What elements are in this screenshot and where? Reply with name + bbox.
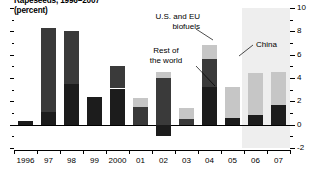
bar-segment: [179, 108, 193, 119]
x-tick: [152, 150, 153, 154]
y-tick-label: 6: [297, 51, 301, 59]
bar-segment: [133, 98, 147, 107]
bar-2000: [110, 8, 124, 148]
annotation-rest-line2: the world: [136, 56, 196, 66]
y-tick-label: 0: [297, 121, 301, 129]
x-tick: [60, 150, 61, 154]
bar-segment: [271, 72, 285, 105]
x-tick: [14, 150, 15, 154]
x-axis-label-2000: 2000: [109, 156, 127, 165]
bar-segment: [179, 119, 193, 125]
bar-segment: [156, 125, 170, 137]
bar-segment: [110, 66, 124, 88]
x-axis-label-06: 06: [251, 156, 260, 165]
y-tick-left-stub: [10, 31, 14, 32]
annotation-biofuels-line2: biofuels: [138, 22, 200, 32]
bar-segment: [248, 73, 262, 115]
x-axis-label-98: 98: [67, 156, 76, 165]
bar-segment: [225, 87, 239, 117]
x-tick: [198, 150, 199, 154]
y-tick-label: -2: [297, 144, 304, 152]
y-tick-left-stub: [12, 136, 14, 137]
bar-segment: [225, 118, 239, 125]
x-axis-label-03: 03: [182, 156, 191, 165]
y-tick-left-stub: [10, 55, 14, 56]
x-tick: [290, 150, 291, 154]
y-tick-minor: [290, 66, 293, 67]
y-tick-minor: [290, 43, 293, 44]
annotation-rest-of-world: Rest of the world: [136, 46, 196, 65]
x-axis-label-97: 97: [44, 156, 53, 165]
bar-04: [202, 8, 216, 148]
bar-99: [87, 8, 101, 148]
bar-segment: [202, 59, 216, 87]
y-tick-left-stub: [10, 125, 14, 126]
y-tick-left-stub: [12, 43, 14, 44]
bar-segment: [18, 121, 32, 125]
y-tick-minor: [290, 113, 293, 114]
x-tick: [106, 150, 107, 154]
bar-06: [248, 8, 262, 148]
bar-segment: [64, 31, 78, 84]
x-tick: [267, 150, 268, 154]
y-tick-major: [290, 78, 295, 79]
x-tick: [244, 150, 245, 154]
y-tick-major: [290, 55, 295, 56]
annotation-rest-line1: Rest of: [136, 46, 196, 56]
x-axis-label-02: 02: [159, 156, 168, 165]
annotation-biofuels: U.S. and EU biofuels: [138, 12, 200, 31]
bar-segment: [156, 78, 170, 125]
bar-segment: [87, 97, 101, 125]
y-tick-left-stub: [12, 66, 14, 67]
annotation-china: China: [256, 40, 277, 50]
bar-98: [64, 8, 78, 148]
y-tick-label: 4: [297, 74, 301, 82]
y-tick-left-stub: [10, 101, 14, 102]
y-tick-label: 2: [297, 97, 301, 105]
bar-segment: [202, 45, 216, 59]
x-axis-label-01: 01: [136, 156, 145, 165]
x-tick: [221, 150, 222, 154]
bar-segment: [271, 105, 285, 125]
bar-segment: [156, 72, 170, 78]
y-tick-major: [290, 31, 295, 32]
y-axis-right: 1086420-2: [290, 8, 318, 148]
y-tick-major: [290, 8, 295, 9]
y-tick-left-stub: [10, 148, 14, 149]
bar-1996: [18, 8, 32, 148]
bar-segment: [41, 28, 55, 112]
y-tick-left-stub: [10, 8, 14, 9]
bar-07: [271, 8, 285, 148]
y-tick-label: 10: [297, 4, 306, 12]
bar-segment: [110, 89, 124, 125]
x-tick: [129, 150, 130, 154]
chart-figure: Rapeseeds, 1996–2007 (percent) 1086420-2…: [0, 0, 318, 171]
bar-segment: [133, 107, 147, 125]
y-tick-major: [290, 125, 295, 126]
x-axis-label-05: 05: [228, 156, 237, 165]
x-axis-label-1996: 1996: [17, 156, 35, 165]
y-tick-left-stub: [12, 90, 14, 91]
y-tick-left-stub: [10, 78, 14, 79]
y-tick-minor: [290, 20, 293, 21]
annotation-china-line1: China: [256, 40, 277, 50]
y-tick-label: 8: [297, 27, 301, 35]
bar-segment: [64, 84, 78, 125]
x-tick: [175, 150, 176, 154]
y-tick-minor: [290, 136, 293, 137]
x-axis-label-04: 04: [205, 156, 214, 165]
bar-segment: [248, 115, 262, 124]
y-tick-major: [290, 101, 295, 102]
bar-05: [225, 8, 239, 148]
annotation-biofuels-line1: U.S. and EU: [138, 12, 200, 22]
x-tick: [83, 150, 84, 154]
y-tick-left-stub: [12, 113, 14, 114]
x-tick: [37, 150, 38, 154]
x-axis-label-07: 07: [274, 156, 283, 165]
y-tick-left-stub: [12, 20, 14, 21]
y-tick-major: [290, 148, 295, 149]
bar-segment: [202, 87, 216, 124]
bar-segment: [41, 112, 55, 125]
y-tick-minor: [290, 90, 293, 91]
bar-97: [41, 8, 55, 148]
